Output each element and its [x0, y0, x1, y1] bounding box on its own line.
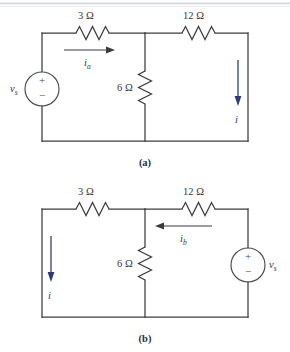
source-plus-sign-a: + [39, 74, 45, 86]
resistor-12ohm-label-b: 12 Ω [183, 186, 204, 197]
circuit-figure-b: + − vs 3 Ω 12 Ω 6 Ω ib i (b) [0, 176, 290, 352]
current-i-label-a: i [235, 114, 238, 125]
resistor-6ohm-b [139, 247, 152, 280]
current-i-arrow-head-b [48, 272, 55, 282]
source-minus-sign-a: − [39, 89, 45, 101]
figure-caption-a: (a) [139, 157, 152, 169]
current-ib-arrow-head-b [155, 223, 164, 230]
resistor-3ohm-label-b: 3 Ω [78, 186, 94, 197]
current-i-arrow-head-a [235, 96, 242, 106]
resistor-12ohm-label-a: 12 Ω [183, 10, 204, 21]
current-ia-label-a: ia [84, 57, 91, 71]
resistor-3ohm-b [76, 203, 109, 216]
circuit-figure-a: + − vs 3 Ω 12 Ω 6 Ω ia i (a) [0, 0, 290, 176]
source-minus-sign-b: − [245, 265, 251, 277]
circuit-a-svg: + − vs 3 Ω 12 Ω 6 Ω ia i (a) [0, 0, 290, 176]
current-ia-arrow-head-a [106, 47, 115, 54]
resistor-6ohm-a [139, 71, 152, 104]
resistor-12ohm-a [182, 27, 215, 40]
resistor-6ohm-label-a: 6 Ω [117, 82, 133, 93]
source-plus-sign-b: + [245, 250, 251, 262]
resistor-6ohm-label-b: 6 Ω [117, 258, 133, 269]
circuit-b-svg: + − vs 3 Ω 12 Ω 6 Ω ib i (b) [0, 176, 290, 352]
source-label-b: vs [269, 259, 277, 273]
resistor-3ohm-label-a: 3 Ω [78, 10, 94, 21]
current-ib-label-b: ib [180, 233, 187, 247]
resistor-3ohm-a [76, 27, 109, 40]
resistor-12ohm-b [182, 203, 215, 216]
current-i-label-b: i [48, 290, 51, 301]
figure-caption-b: (b) [139, 333, 152, 345]
source-label-a: vs [10, 83, 18, 97]
